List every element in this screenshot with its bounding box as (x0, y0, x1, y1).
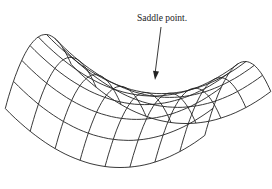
saddle-figure: Saddle point. (0, 0, 272, 189)
mesh-line (5, 35, 71, 109)
mesh-line (63, 48, 263, 107)
saddle-surface-wireframe (0, 0, 272, 189)
arrow-icon (153, 27, 161, 80)
mesh-line (80, 86, 146, 160)
saddle-point-label: Saddle point. (137, 13, 187, 23)
mesh-line (30, 46, 230, 105)
mesh-line (105, 93, 171, 167)
mesh-line (55, 75, 121, 149)
mesh-line (47, 35, 247, 94)
mesh-line (30, 57, 96, 131)
